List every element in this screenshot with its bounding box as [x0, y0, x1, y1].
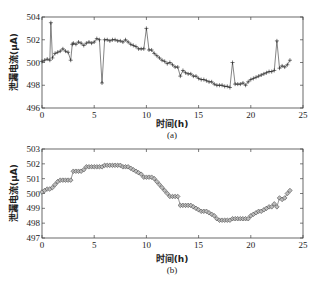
plus-marker	[49, 21, 53, 25]
x-tick-label: 5	[92, 110, 97, 120]
plus-marker	[144, 26, 148, 30]
y-tick-label: 503	[27, 144, 41, 154]
x-tick-label: 20	[246, 110, 256, 120]
plus-marker	[176, 65, 180, 69]
plus-marker	[275, 39, 279, 43]
x-tick-label: 15	[194, 110, 204, 120]
y-tick-label: 500	[27, 189, 41, 199]
plus-marker	[100, 81, 104, 85]
y-tick-label: 498	[27, 80, 41, 90]
x-tick-label: 0	[40, 240, 45, 250]
plus-marker	[69, 58, 73, 62]
y-axis-title-b: 泄漏电流(μA)	[8, 164, 19, 222]
x-tick-label: 0	[40, 110, 45, 120]
plot-frame-a	[42, 17, 303, 108]
y-tick-label: 500	[27, 58, 41, 68]
ticks-b: 0510152025497498499500501502503	[27, 144, 309, 250]
x-tick-label: 25	[299, 110, 309, 120]
y-tick-label: 502	[27, 35, 41, 45]
y-tick-label: 501	[27, 174, 41, 184]
series-markers-a	[40, 21, 292, 90]
y-axis-title-a: 泄漏电流(μA)	[8, 33, 19, 91]
y-tick-label: 502	[27, 159, 41, 169]
x-tick-label: 25	[299, 240, 309, 250]
x-axis-title-b: 时间(h)	[156, 253, 189, 264]
chart-a: 0510152025496498500502504 时间(h) (a) 泄漏电流…	[8, 12, 308, 140]
x-axis-title-a: 时间(h)	[156, 118, 189, 129]
plus-marker	[178, 74, 182, 78]
plus-marker	[231, 61, 235, 65]
panel-label-b: (b)	[167, 265, 178, 275]
panel-label-a: (a)	[167, 130, 177, 140]
y-tick-label: 496	[27, 103, 41, 113]
plus-marker	[142, 47, 146, 51]
x-tick-label: 10	[142, 240, 152, 250]
plot-frame-b	[42, 149, 303, 238]
figure: 0510152025496498500502504 时间(h) (a) 泄漏电流…	[0, 0, 318, 283]
series-line-a	[42, 23, 290, 88]
ticks-a: 0510152025496498500502504	[27, 12, 309, 120]
series-markers-b	[40, 163, 293, 222]
plus-marker	[288, 58, 292, 62]
y-tick-label: 499	[27, 203, 41, 213]
y-tick-label: 504	[27, 12, 41, 22]
x-tick-label: 20	[246, 240, 256, 250]
x-tick-label: 10	[142, 110, 152, 120]
y-tick-label: 497	[27, 233, 41, 243]
x-tick-label: 15	[194, 240, 204, 250]
x-tick-label: 5	[92, 240, 97, 250]
chart-b: 0510152025497498499500501502503 时间(h) (b…	[8, 144, 308, 275]
y-tick-label: 498	[27, 218, 41, 228]
plus-marker	[50, 56, 54, 60]
